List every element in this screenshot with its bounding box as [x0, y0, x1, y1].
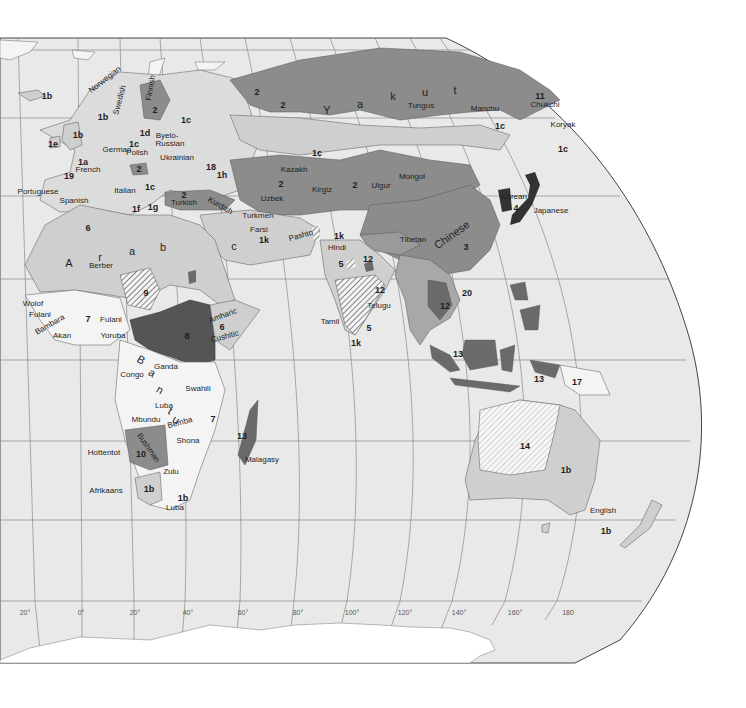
- language-label: Japanese: [534, 207, 569, 215]
- language-label: u: [422, 87, 428, 98]
- language-family-code: 2: [152, 106, 157, 115]
- language-label: Shona: [176, 437, 199, 445]
- language-label: Mongol: [399, 173, 425, 181]
- language-family-code: 7: [85, 315, 90, 324]
- language-label: Russian: [156, 140, 185, 148]
- language-label: t: [453, 85, 456, 96]
- language-label: c: [231, 241, 237, 252]
- language-family-code: 2: [136, 165, 141, 174]
- language-family-code: 1c: [145, 183, 155, 192]
- longitude-tick: 80°: [293, 609, 304, 616]
- longitude-tick: 140°: [452, 609, 466, 616]
- language-label: Congo: [120, 371, 144, 379]
- language-family-code: 1h: [217, 171, 228, 180]
- language-family-code: 1k: [259, 236, 269, 245]
- language-family-code: 9: [143, 289, 148, 298]
- language-label: Tungus: [408, 102, 434, 110]
- language-label: Tibetan: [400, 236, 426, 244]
- language-family-code: 2: [280, 101, 285, 110]
- language-family-code: 13: [534, 375, 544, 384]
- language-family-code: 1e: [48, 140, 58, 149]
- language-family-code: 1k: [334, 232, 344, 241]
- language-label: Korean: [501, 193, 527, 201]
- language-label: Kazakh: [281, 166, 308, 174]
- language-family-code: 1b: [42, 92, 53, 101]
- language-family-code: 2: [254, 88, 259, 97]
- language-family-code: 4: [513, 204, 518, 213]
- language-family-code: 13: [237, 432, 247, 441]
- language-label: Spanish: [60, 197, 89, 205]
- language-family-code: 1k: [351, 339, 361, 348]
- language-label: Fulani: [100, 316, 122, 324]
- language-family-code: 2: [352, 181, 357, 190]
- language-label: Telugu: [367, 302, 391, 310]
- language-label: Farsi: [250, 226, 268, 234]
- language-label: Manchu: [471, 105, 499, 113]
- language-label: English: [590, 507, 616, 515]
- language-label: Ukrainian: [160, 154, 194, 162]
- language-label: A: [65, 258, 72, 269]
- language-label: Uzbek: [261, 195, 284, 203]
- language-family-code: 1c: [558, 145, 568, 154]
- longitude-tick: 0°: [78, 609, 85, 616]
- language-family-code: 2: [278, 180, 283, 189]
- sudan-dark: [188, 270, 196, 284]
- language-family-code: 1d: [140, 129, 151, 138]
- language-family-code: 1c: [312, 149, 322, 158]
- language-label: a: [357, 99, 363, 110]
- language-family-code: 18: [206, 163, 216, 172]
- longitude-tick: 20°: [20, 609, 31, 616]
- language-label: Italian: [114, 187, 135, 195]
- language-family-code: 5: [338, 260, 343, 269]
- longitude-tick: 180: [562, 609, 574, 616]
- language-family-code: 12: [440, 302, 450, 311]
- language-family-code: 1c: [181, 116, 191, 125]
- world-languages-map: [0, 0, 746, 708]
- language-family-code: 5: [366, 324, 371, 333]
- language-label: French: [76, 166, 101, 174]
- language-label: Afrikaans: [89, 487, 122, 495]
- language-family-code: 1b: [178, 494, 189, 503]
- longitude-tick: 160°: [508, 609, 522, 616]
- longitude-tick: 100°: [345, 609, 359, 616]
- language-label: Fulani: [29, 311, 51, 319]
- language-family-code: 1b: [144, 485, 155, 494]
- language-label: Tamil: [321, 318, 340, 326]
- language-family-code: 6: [219, 323, 224, 332]
- language-label: Luba: [166, 504, 184, 512]
- language-label: Koryak: [551, 121, 576, 129]
- language-family-code: 17: [572, 378, 582, 387]
- language-label: Swahili: [185, 385, 210, 393]
- language-label: Mbundu: [132, 416, 161, 424]
- language-family-code: 13: [453, 350, 463, 359]
- language-label: Wolof: [23, 300, 43, 308]
- language-label: Uigur: [371, 182, 390, 190]
- language-label: Malagasy: [245, 456, 279, 464]
- language-family-code: 1c: [495, 122, 505, 131]
- language-label: Ganda: [154, 363, 178, 371]
- language-family-code: 1f: [132, 205, 140, 214]
- language-family-code: 14: [520, 442, 530, 451]
- language-family-code: 1g: [148, 203, 159, 212]
- longitude-tick: 60°: [238, 609, 249, 616]
- language-family-code: 19: [64, 172, 74, 181]
- language-label: Kirgiz: [312, 186, 332, 194]
- language-label: Yoruba: [100, 332, 125, 340]
- language-label: Portuguese: [18, 188, 59, 196]
- longitude-tick: 20°: [130, 609, 141, 616]
- longitude-tick: 120°: [398, 609, 412, 616]
- language-family-code: 20: [462, 289, 472, 298]
- language-family-code: 1b: [73, 131, 84, 140]
- language-family-code: 10: [136, 450, 146, 459]
- language-label: k: [390, 91, 396, 102]
- language-family-code: 6: [85, 224, 90, 233]
- language-label: Hindi: [328, 244, 346, 252]
- language-label: Chukchi: [531, 101, 560, 109]
- language-label: Zulu: [163, 468, 179, 476]
- language-label: Hottentot: [88, 449, 120, 457]
- language-family-code: 12: [363, 255, 373, 264]
- language-label: Turkish: [171, 199, 197, 207]
- language-label: a: [129, 246, 135, 257]
- language-family-code: 3: [463, 243, 468, 252]
- language-label: b: [160, 242, 166, 253]
